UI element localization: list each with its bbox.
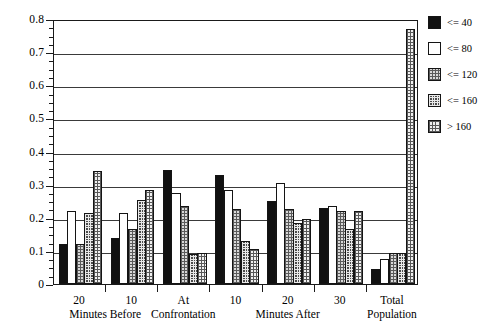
- x-axis-tick: [105, 285, 106, 292]
- gridline: [54, 120, 417, 121]
- bar: [371, 269, 380, 284]
- y-axis-tick: [46, 252, 53, 253]
- bar: [171, 193, 180, 284]
- legend-swatch: [428, 42, 441, 55]
- legend-item: <= 40: [428, 10, 484, 34]
- bar: [249, 249, 258, 284]
- bar: [302, 219, 311, 284]
- y-axis-tick-label: 0.8: [29, 14, 44, 26]
- bar: [336, 211, 345, 284]
- bar: [284, 209, 293, 284]
- legend-swatch: [428, 94, 441, 107]
- y-axis-tick-label: 0.3: [29, 180, 44, 192]
- bar: [197, 253, 206, 284]
- legend-swatch: [428, 16, 441, 29]
- bar: [406, 29, 415, 284]
- bar: [145, 190, 154, 284]
- x-axis-tick-label: 10: [125, 294, 137, 306]
- x-axis-tick-label: 30: [334, 294, 346, 306]
- y-axis-tick: [46, 119, 53, 120]
- bar: [241, 241, 250, 284]
- x-axis-tick-label: 20: [73, 294, 85, 306]
- y-axis-tick: [46, 285, 53, 286]
- x-axis-tick: [366, 285, 367, 292]
- x-axis-group-label: Minutes After: [256, 308, 320, 320]
- bar: [215, 175, 224, 284]
- y-axis-tick: [46, 20, 53, 21]
- bar: [224, 190, 233, 284]
- bar: [93, 171, 102, 284]
- x-axis-tick-label: At: [178, 294, 190, 306]
- bar: [293, 223, 302, 284]
- legend-label: <= 160: [447, 95, 477, 106]
- legend-label: <= 40: [447, 17, 472, 28]
- gridline: [54, 54, 417, 55]
- gridline: [54, 187, 417, 188]
- bar: [76, 244, 85, 284]
- bar: [67, 211, 76, 284]
- bar: [137, 200, 146, 284]
- y-axis-tick-label: 0.6: [29, 80, 44, 92]
- bar: [119, 213, 128, 284]
- legend-swatch: [428, 120, 441, 133]
- bar: [189, 254, 198, 284]
- y-axis-tick: [46, 53, 53, 54]
- y-axis-tick: [46, 219, 53, 220]
- y-axis-tick-label: 0.4: [29, 147, 44, 159]
- bar: [328, 206, 337, 284]
- legend-item: <= 120: [428, 62, 484, 86]
- bar: [267, 201, 276, 284]
- bar: [59, 244, 68, 284]
- bar: [354, 211, 363, 284]
- bar: [319, 208, 328, 284]
- gridline: [54, 87, 417, 88]
- x-axis-tick-label: Total: [380, 294, 403, 306]
- legend-label: <= 80: [447, 43, 472, 54]
- bar: [276, 183, 285, 284]
- y-axis-tick: [46, 153, 53, 154]
- x-axis-tick: [209, 285, 210, 292]
- x-axis-tick-label: 10: [230, 294, 242, 306]
- bar-chart-figure: 00.10.20.30.40.50.60.70.8 2010AtConfront…: [0, 0, 484, 327]
- y-axis-tick-label: 0.5: [29, 113, 44, 125]
- x-axis-tick-label: 20: [282, 294, 294, 306]
- legend-label: <= 120: [447, 69, 477, 80]
- bar: [380, 259, 389, 284]
- chart-legend: <= 40<= 80<= 120<= 160> 160: [428, 10, 484, 140]
- legend-label: > 160: [447, 121, 471, 132]
- x-axis-sub-label: Population: [367, 308, 417, 320]
- y-axis-tick: [46, 186, 53, 187]
- gridline: [54, 154, 417, 155]
- bar: [84, 213, 93, 284]
- x-axis-tick: [314, 285, 315, 292]
- y-axis-tick-label: 0.7: [29, 47, 44, 59]
- y-axis-tick-label: 0: [38, 279, 44, 291]
- bar: [180, 206, 189, 284]
- x-axis-tick: [262, 285, 263, 292]
- bar: [345, 229, 354, 284]
- plot-area: [53, 20, 418, 285]
- y-axis-tick-label: 0.2: [29, 213, 44, 225]
- bar: [389, 253, 398, 284]
- x-axis-group-label: Minutes Before: [69, 308, 141, 320]
- legend-item: <= 80: [428, 36, 484, 60]
- bar: [111, 238, 120, 284]
- bar: [232, 209, 241, 284]
- y-axis-tick-label: 0.1: [29, 246, 44, 258]
- legend-item: <= 160: [428, 88, 484, 112]
- legend-item: > 160: [428, 114, 484, 138]
- x-axis-tick: [157, 285, 158, 292]
- bar: [163, 170, 172, 284]
- x-axis-sub-label: Confrontation: [151, 308, 216, 320]
- y-axis-tick: [46, 86, 53, 87]
- bar: [128, 229, 137, 284]
- legend-swatch: [428, 68, 441, 81]
- bar: [397, 253, 406, 284]
